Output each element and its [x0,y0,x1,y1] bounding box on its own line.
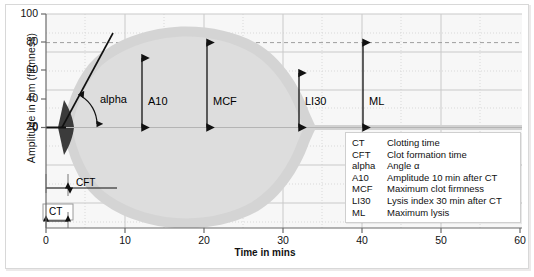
legend-row-ct: CT Clotting time [352,137,515,149]
legend-desc-mcf: Maximum clot firmness [387,183,484,195]
x-tick-60: 60 [505,234,534,246]
y-tick-60: 60 [8,63,38,75]
a10-label: A10 [148,95,168,107]
legend-row-mcf: MCF Maximum clot firmness [352,183,515,195]
legend-desc-ml: Maximum lysis [387,207,449,219]
mcf-label: MCF [213,95,237,107]
legend-row-li30: LI30 Lysis index 30 min after CT [352,195,515,207]
y-tick-40: 40 [8,92,38,104]
y-axis-ticks [41,14,46,128]
legend-desc-li30: Lysis index 30 min after CT [387,195,502,207]
ml-label: ML [369,95,384,107]
y-tick-20b: 0 [8,121,38,133]
cft-label: CFT [76,177,95,188]
legend-desc-a10: Amplitude 10 min after CT [387,172,497,184]
legend-row-a10: A10 Amplitude 10 min after CT [352,172,515,184]
li30-label: LI30 [305,95,326,107]
x-axis-label: Time in mins [180,247,350,258]
legend-abbr-a10: A10 [352,172,387,184]
y-tick-100: 100 [8,7,38,19]
x-tick-20: 20 [189,234,219,246]
x-axis-ticks [46,228,520,233]
ct-label: CT [49,206,62,217]
legend-abbr-alpha: alpha [352,160,387,172]
legend-abbr-cft: CFT [352,149,387,161]
legend-row-ml: ML Maximum lysis [352,207,515,219]
legend-abbr-mcf: MCF [352,183,387,195]
y-tick-80: 80 [8,35,38,47]
x-tick-50: 50 [426,234,456,246]
legend-abbr-ct: CT [352,137,387,149]
thrombelastometry-figure: Amplitude in mm (firmness) Time in mins … [0,0,534,277]
alpha-label: alpha [100,93,127,105]
legend-row-cft: CFT Clot formation time [352,149,515,161]
parameter-legend: CT Clotting time CFT Clot formation time… [345,132,521,223]
x-tick-30: 30 [268,234,298,246]
legend-abbr-ml: ML [352,207,387,219]
x-tick-10: 10 [110,234,140,246]
x-tick-40: 40 [347,234,377,246]
legend-row-alpha: alpha Angle α [352,160,515,172]
legend-abbr-li30: LI30 [352,195,387,207]
legend-desc-ct: Clotting time [387,137,440,149]
legend-desc-cft: Clot formation time [387,149,467,161]
legend-desc-alpha: Angle α [387,160,419,172]
x-tick-0: 0 [31,234,61,246]
